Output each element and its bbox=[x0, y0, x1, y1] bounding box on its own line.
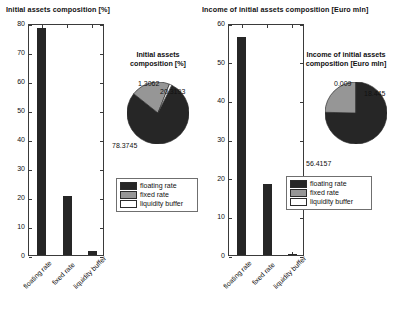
y-axis-tick-label: 50 bbox=[203, 59, 225, 66]
legend-row: fixed rate bbox=[120, 191, 194, 199]
pie-data-label-fixed-rate: 20.3193 bbox=[160, 88, 185, 95]
right-pie-title: Income of initial assets composition [Eu… bbox=[296, 50, 396, 68]
pie-legend: floating ratefixed rateliquidity buffer bbox=[116, 178, 198, 212]
legend-label: fixed rate bbox=[310, 189, 339, 197]
x-axis-tick-mark bbox=[92, 25, 93, 28]
left-inset-pie-chart: Initial assets composition [%] 78.374520… bbox=[118, 50, 198, 148]
legend-row: floating rate bbox=[290, 180, 368, 188]
y-axis-tick-label: 30 bbox=[203, 136, 225, 143]
y-axis-tick-mark bbox=[100, 170, 103, 171]
y-axis-tick-mark bbox=[100, 228, 103, 229]
y-axis-tick-mark bbox=[229, 63, 232, 64]
legend-swatch-fixed-rate bbox=[120, 191, 137, 199]
x-axis-tick-mark bbox=[242, 25, 243, 28]
y-axis-tick-mark bbox=[29, 228, 32, 229]
x-axis-tick-mark bbox=[292, 25, 293, 28]
pie-graphic-wrapper: 56.415718.4450.009 bbox=[296, 68, 396, 148]
pie-data-label-liquidity-buffer: 1.3062 bbox=[138, 80, 159, 87]
y-axis-tick-label: 60 bbox=[203, 20, 225, 27]
y-axis-tick-mark bbox=[229, 218, 232, 219]
pie-data-label-fixed-rate: 18.445 bbox=[364, 90, 385, 97]
legend-row: floating rate bbox=[120, 182, 194, 190]
right-pie-title-line2: composition [Euro mln] bbox=[296, 59, 396, 68]
left-figure-panel: Initial assets composition [%] 010203040… bbox=[0, 0, 199, 311]
y-axis-tick-mark bbox=[100, 141, 103, 142]
pie-data-label-floating-rate: 78.3745 bbox=[112, 142, 137, 149]
bar-floating-rate bbox=[237, 37, 246, 255]
y-axis-tick-mark bbox=[29, 25, 32, 26]
legend-swatch-liquidity-buffer bbox=[290, 198, 307, 206]
legend-swatch-floating-rate bbox=[290, 180, 307, 188]
x-axis-tick-mark bbox=[67, 25, 68, 28]
legend-label: floating rate bbox=[310, 180, 347, 188]
y-axis-tick-label: 20 bbox=[3, 194, 25, 201]
y-axis-tick-mark bbox=[29, 170, 32, 171]
y-axis-tick-mark bbox=[229, 102, 232, 103]
y-axis-tick-label: 70 bbox=[3, 49, 25, 56]
pie-data-label-liquidity-buffer: 0.009 bbox=[334, 80, 352, 87]
left-pie-title-line2: composition [%] bbox=[118, 59, 198, 68]
y-axis-tick-mark bbox=[229, 257, 232, 258]
left-bar-plot-area: 01020304050607080floating ratefixed rate… bbox=[28, 24, 104, 256]
y-axis-tick-mark bbox=[229, 141, 232, 142]
bar-liquidity-buffer bbox=[88, 251, 97, 255]
y-axis-tick-mark bbox=[29, 112, 32, 113]
legend-row: fixed rate bbox=[290, 189, 368, 197]
legend-swatch-liquidity-buffer bbox=[120, 200, 137, 208]
right-pie-title-line1: Income of initial assets bbox=[296, 50, 396, 59]
bar-fixed-rate bbox=[263, 184, 272, 255]
bar-liquidity-buffer bbox=[288, 254, 297, 255]
y-axis-tick-mark bbox=[29, 199, 32, 200]
y-axis-tick-label: 60 bbox=[3, 78, 25, 85]
x-axis-tick-mark bbox=[267, 25, 268, 28]
y-axis-tick-label: 10 bbox=[203, 213, 225, 220]
legend-label: liquidity buffer bbox=[310, 198, 353, 206]
y-axis-tick-label: 40 bbox=[3, 136, 25, 143]
left-pie-title: Initial assets composition [%] bbox=[118, 50, 198, 68]
y-axis-tick-label: 80 bbox=[3, 20, 25, 27]
y-axis-tick-mark bbox=[100, 83, 103, 84]
legend-row: liquidity buffer bbox=[290, 198, 368, 206]
y-axis-tick-label: 30 bbox=[3, 165, 25, 172]
y-axis-tick-mark bbox=[100, 54, 103, 55]
y-axis-tick-label: 50 bbox=[3, 107, 25, 114]
y-axis-tick-mark bbox=[100, 25, 103, 26]
legend-swatch-floating-rate bbox=[120, 182, 137, 190]
legend-label: fixed rate bbox=[140, 191, 169, 199]
legend-row: liquidity buffer bbox=[120, 200, 194, 208]
y-axis-tick-label: 0 bbox=[3, 252, 25, 259]
pie-data-label-floating-rate: 56.4157 bbox=[306, 160, 331, 167]
y-axis-tick-label: 0 bbox=[203, 252, 225, 259]
left-chart-title: Initial assets composition [%] bbox=[6, 5, 110, 14]
right-inset-pie-chart: Income of initial assets composition [Eu… bbox=[296, 50, 396, 148]
bar-fixed-rate bbox=[63, 196, 72, 255]
y-axis-tick-mark bbox=[300, 218, 303, 219]
y-axis-tick-label: 10 bbox=[3, 223, 25, 230]
legend-label: liquidity buffer bbox=[140, 200, 183, 208]
y-axis-tick-mark bbox=[29, 54, 32, 55]
y-axis-tick-mark bbox=[300, 25, 303, 26]
y-axis-tick-mark bbox=[229, 25, 232, 26]
right-chart-title: Income of initial assets composition [Eu… bbox=[202, 5, 368, 14]
y-axis-tick-mark bbox=[100, 199, 103, 200]
legend-swatch-fixed-rate bbox=[290, 189, 307, 197]
pie-legend: floating ratefixed rateliquidity buffer bbox=[286, 176, 372, 210]
y-axis-tick-mark bbox=[29, 257, 32, 258]
y-axis-tick-mark bbox=[29, 83, 32, 84]
y-axis-tick-mark bbox=[100, 112, 103, 113]
left-pie-title-line1: Initial assets bbox=[118, 50, 198, 59]
y-axis-tick-mark bbox=[229, 179, 232, 180]
y-axis-tick-label: 40 bbox=[203, 97, 225, 104]
y-axis-tick-label: 20 bbox=[203, 175, 225, 182]
right-figure-panel: Income of initial assets composition [Eu… bbox=[200, 0, 399, 311]
pie-graphic-wrapper: 78.374520.31931.3062 bbox=[118, 68, 198, 148]
y-axis-tick-mark bbox=[29, 141, 32, 142]
legend-label: floating rate bbox=[140, 182, 177, 190]
right-bar-plot-area: 0102030405060floating ratefixed rateliqu… bbox=[228, 24, 304, 256]
bar-floating-rate bbox=[37, 28, 46, 255]
